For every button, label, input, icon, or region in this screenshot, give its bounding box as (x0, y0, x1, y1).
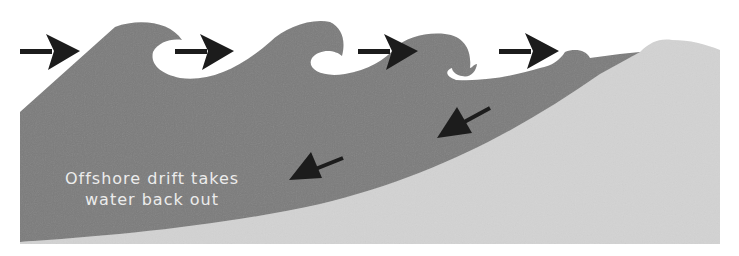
incoming-wave-arrow-1 (20, 34, 80, 70)
label-line-1: Offshore drift takes (65, 169, 239, 188)
wave-diagram: Offshore drift takes water back out (0, 0, 739, 256)
incoming-wave-arrow-4 (499, 33, 559, 69)
incoming-wave-arrow-2 (175, 34, 234, 70)
label-line-2: water back out (85, 190, 219, 209)
